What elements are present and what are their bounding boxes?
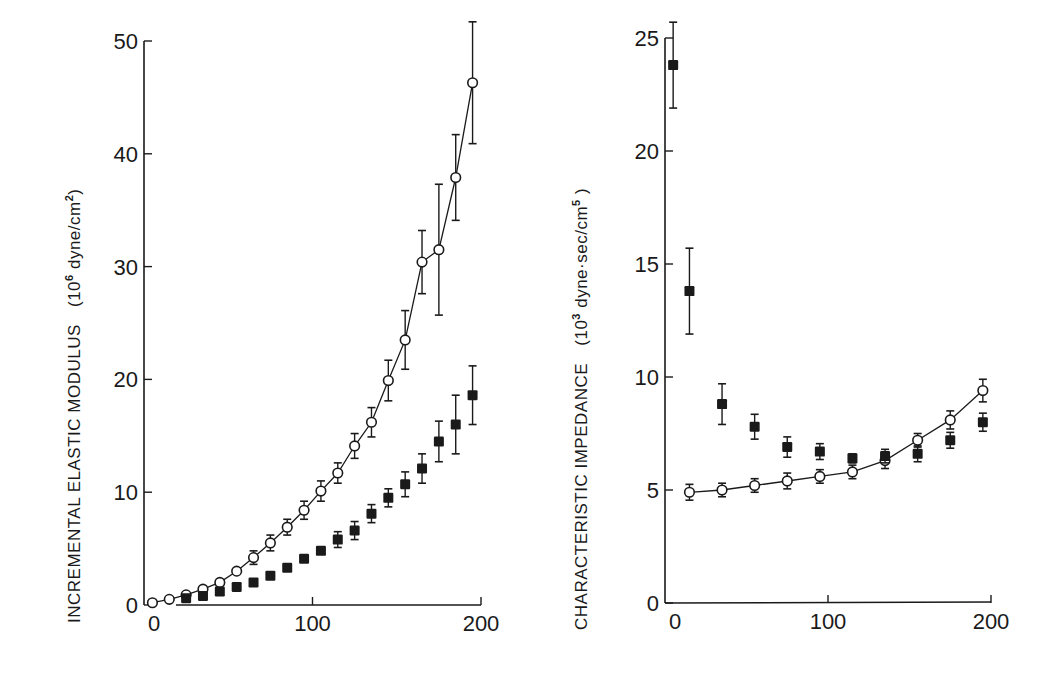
y-tick-label: 25 bbox=[635, 26, 659, 51]
y-axis-units-exponent2: 2 bbox=[63, 195, 75, 202]
filled-square-marker bbox=[316, 546, 326, 556]
plot-area bbox=[668, 22, 988, 500]
open-circle-marker bbox=[434, 245, 444, 255]
open-circle-marker bbox=[451, 173, 461, 183]
open-circle-marker bbox=[848, 467, 858, 477]
y-axis-units-exponent: 6 bbox=[63, 274, 75, 281]
open-circle-marker bbox=[400, 335, 410, 345]
open-circle-marker bbox=[945, 415, 955, 425]
open-circle-marker bbox=[417, 257, 427, 267]
x-axis: 0100200 bbox=[148, 597, 499, 636]
x-ticks: 0100200 bbox=[669, 595, 1009, 634]
filled-square-marker bbox=[198, 591, 208, 601]
filled-square-marker bbox=[684, 286, 694, 296]
open-circle-marker bbox=[282, 522, 292, 532]
open-circle-marker bbox=[164, 595, 174, 605]
open-circle-marker bbox=[782, 476, 792, 486]
filled-square-marker bbox=[400, 479, 410, 489]
open-circle-marker bbox=[717, 485, 727, 495]
filled-square-marker bbox=[913, 449, 923, 459]
y-axis: 0510152025 bbox=[635, 26, 673, 616]
y-tick-label: 20 bbox=[635, 139, 659, 164]
open-circle-marker bbox=[384, 376, 394, 386]
y-axis-units-body: dyne·sec/cm bbox=[572, 206, 591, 313]
x-tick-label: 0 bbox=[148, 611, 160, 636]
y-axis-units: (10 bbox=[65, 281, 84, 307]
filled-square-marker bbox=[181, 593, 191, 603]
filled-square-marker bbox=[847, 453, 857, 463]
y-axis-units-close: ) bbox=[65, 189, 84, 195]
filled-square-marker bbox=[333, 535, 343, 545]
filled-square-marker bbox=[350, 526, 360, 536]
open-circle-marker bbox=[685, 487, 695, 497]
open-circle-marker bbox=[316, 486, 326, 496]
filled-square-marker bbox=[468, 390, 478, 400]
filled-square-marker bbox=[366, 509, 376, 519]
y-ticks: 0510152025 bbox=[635, 26, 673, 616]
filled-square-marker bbox=[451, 420, 461, 430]
y-tick-label: 0 bbox=[647, 591, 659, 616]
filled-square-marker bbox=[215, 586, 225, 596]
open-circle-marker bbox=[750, 481, 760, 491]
x-ticks: 0100200 bbox=[148, 597, 499, 636]
y-axis-units: (10 bbox=[572, 320, 591, 346]
y-tick-label: 10 bbox=[114, 480, 138, 505]
y-tick-label: 40 bbox=[114, 142, 138, 167]
figure: 01020304050 0100200 INCREMENTAL ELASTIC … bbox=[0, 0, 1063, 682]
x-axis: 0100200 bbox=[665, 595, 1009, 634]
x-tick-label: 200 bbox=[973, 609, 1010, 634]
filled-square-marker bbox=[249, 577, 259, 587]
open-circle-marker bbox=[367, 417, 377, 427]
y-tick-label: 10 bbox=[635, 365, 659, 390]
y-ticks: 01020304050 bbox=[114, 29, 152, 618]
filled-square-marker bbox=[383, 493, 393, 503]
open-circle-marker bbox=[266, 538, 276, 548]
filled-square-marker bbox=[880, 451, 890, 461]
open-circle-marker bbox=[249, 553, 259, 563]
y-axis-units-exponent: 3 bbox=[570, 313, 582, 320]
x-tick-label: 0 bbox=[669, 609, 681, 634]
x-tick-label: 100 bbox=[810, 609, 847, 634]
y-axis-title-main: CHARACTERISTIC IMPEDANCE bbox=[572, 363, 591, 630]
y-axis-units-body: dyne/cm bbox=[65, 201, 84, 274]
open-circle-marker bbox=[978, 386, 988, 396]
filled-square-marker bbox=[978, 417, 988, 427]
filled-square-marker bbox=[717, 399, 727, 409]
y-axis: 01020304050 bbox=[114, 29, 152, 618]
series-open-circle bbox=[685, 379, 988, 500]
y-axis-title: INCREMENTAL ELASTIC MODULUS (106 dyne/cm… bbox=[63, 189, 84, 623]
x-tick-label: 200 bbox=[463, 611, 500, 636]
y-axis-units-exponent2: 5 bbox=[570, 199, 582, 206]
characteristic-impedance-chart: 0510152025 0100200 CHARACTERISTIC IMPEDA… bbox=[570, 22, 1009, 634]
filled-square-marker bbox=[282, 563, 292, 573]
filled-square-marker bbox=[434, 436, 444, 446]
open-circle-marker bbox=[468, 78, 478, 88]
series-line bbox=[690, 391, 983, 493]
elastic-modulus-chart: 01020304050 0100200 INCREMENTAL ELASTIC … bbox=[63, 22, 499, 636]
filled-square-marker bbox=[945, 435, 955, 445]
y-axis-title-main: INCREMENTAL ELASTIC MODULUS bbox=[65, 324, 84, 623]
y-tick-label: 50 bbox=[114, 29, 138, 54]
y-tick-label: 5 bbox=[647, 478, 659, 503]
open-circle-marker bbox=[815, 472, 825, 482]
open-circle-marker bbox=[913, 435, 923, 445]
filled-square-marker bbox=[782, 442, 792, 452]
y-tick-label: 15 bbox=[635, 252, 659, 277]
series-open-circle bbox=[148, 22, 478, 608]
open-circle-marker bbox=[215, 578, 225, 588]
x-tick-label: 100 bbox=[294, 611, 331, 636]
y-tick-label: 20 bbox=[114, 367, 138, 392]
filled-square-marker bbox=[668, 60, 678, 70]
open-circle-marker bbox=[350, 441, 360, 451]
filled-square-marker bbox=[417, 464, 427, 474]
open-circle-marker bbox=[148, 598, 158, 608]
filled-square-marker bbox=[232, 582, 242, 592]
series-line bbox=[152, 83, 472, 603]
y-tick-label: 0 bbox=[126, 593, 138, 618]
filled-square-marker bbox=[265, 571, 275, 581]
open-circle-marker bbox=[232, 566, 242, 576]
open-circle-marker bbox=[299, 505, 309, 515]
filled-square-marker bbox=[815, 447, 825, 457]
filled-square-marker bbox=[750, 422, 760, 432]
chart-canvas: 01020304050 0100200 INCREMENTAL ELASTIC … bbox=[0, 0, 1063, 682]
